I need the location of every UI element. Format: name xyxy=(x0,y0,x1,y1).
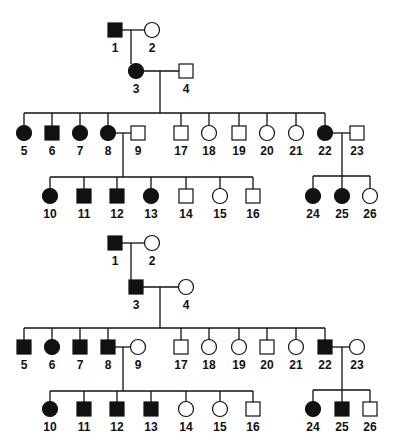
individual-6: 6 xyxy=(45,340,60,373)
affected-female-circle-icon xyxy=(43,402,58,417)
individual-label: 22 xyxy=(318,144,332,158)
individual-label: 5 xyxy=(21,358,28,372)
unaffected-female-circle-icon xyxy=(289,126,304,141)
individual-label: 5 xyxy=(21,144,28,158)
individual-label: 6 xyxy=(49,358,56,372)
individual-label: 24 xyxy=(306,420,320,434)
individual-12: 12 xyxy=(110,402,124,434)
individual-label: 26 xyxy=(363,420,377,434)
individual-16: 16 xyxy=(246,189,260,221)
individual-label: 19 xyxy=(232,358,246,372)
individual-18: 18 xyxy=(202,126,217,159)
individual-5: 5 xyxy=(17,340,31,372)
individual-label: 10 xyxy=(43,207,57,221)
individual-26: 26 xyxy=(363,189,378,222)
individual-label: 15 xyxy=(213,420,227,434)
affected-female-circle-icon xyxy=(17,126,32,141)
affected-female-circle-icon xyxy=(306,189,321,204)
unaffected-female-circle-icon xyxy=(145,23,160,38)
individual-2: 2 xyxy=(145,23,160,56)
individual-label: 8 xyxy=(105,358,112,372)
individual-label: 23 xyxy=(350,358,364,372)
affected-male-square-icon xyxy=(129,280,143,294)
individual-17: 17 xyxy=(174,340,188,372)
individual-9: 9 xyxy=(131,340,146,373)
individual-3: 3 xyxy=(129,64,144,97)
pedigree-bottom: 1234567891718192021222310111213141516242… xyxy=(17,236,377,435)
unaffected-female-circle-icon xyxy=(350,340,365,355)
individual-13: 13 xyxy=(144,402,158,434)
individual-23: 23 xyxy=(350,126,364,158)
individual-label: 2 xyxy=(149,254,156,268)
individual-label: 20 xyxy=(260,144,274,158)
unaffected-female-circle-icon xyxy=(363,189,378,204)
individual-25: 25 xyxy=(335,189,350,222)
affected-female-circle-icon xyxy=(129,64,144,79)
individual-label: 9 xyxy=(135,358,142,372)
individual-label: 7 xyxy=(77,144,84,158)
individual-label: 26 xyxy=(363,207,377,221)
individual-label: 10 xyxy=(43,420,57,434)
individual-20: 20 xyxy=(260,126,275,159)
individual-label: 16 xyxy=(246,420,260,434)
affected-male-square-icon xyxy=(17,340,31,354)
affected-male-square-icon xyxy=(77,402,91,416)
individual-label: 16 xyxy=(246,207,260,221)
individual-label: 2 xyxy=(149,41,156,55)
unaffected-female-circle-icon xyxy=(213,189,228,204)
individual-3: 3 xyxy=(129,280,143,312)
individual-label: 4 xyxy=(183,82,190,96)
individual-label: 9 xyxy=(135,144,142,158)
unaffected-female-circle-icon xyxy=(202,126,217,141)
individual-12: 12 xyxy=(110,189,124,221)
individual-10: 10 xyxy=(43,189,58,222)
individual-label: 4 xyxy=(183,298,190,312)
individual-label: 17 xyxy=(174,144,188,158)
individual-7: 7 xyxy=(73,340,87,372)
individual-22: 22 xyxy=(318,126,333,159)
unaffected-male-square-icon xyxy=(179,189,193,203)
individual-label: 6 xyxy=(49,144,56,158)
pedigree-top: 1234567891718192021222310111213141516242… xyxy=(17,23,378,222)
individual-label: 24 xyxy=(306,207,320,221)
individual-15: 15 xyxy=(213,189,228,222)
individual-15: 15 xyxy=(213,402,228,435)
individual-label: 12 xyxy=(110,420,124,434)
affected-male-square-icon xyxy=(335,402,349,416)
affected-male-square-icon xyxy=(45,126,59,140)
individual-19: 19 xyxy=(232,340,247,373)
individual-11: 11 xyxy=(77,189,91,221)
individual-label: 13 xyxy=(144,207,158,221)
individual-label: 7 xyxy=(77,358,84,372)
individual-5: 5 xyxy=(17,126,32,159)
individual-label: 14 xyxy=(179,420,193,434)
individual-22: 22 xyxy=(318,340,332,372)
individual-19: 19 xyxy=(232,126,246,158)
individual-26: 26 xyxy=(363,402,377,434)
affected-female-circle-icon xyxy=(43,189,58,204)
individual-23: 23 xyxy=(350,340,365,373)
individual-label: 19 xyxy=(232,144,246,158)
affected-female-circle-icon xyxy=(144,189,159,204)
individual-16: 16 xyxy=(246,402,260,434)
individual-21: 21 xyxy=(289,340,304,373)
unaffected-female-circle-icon xyxy=(179,280,194,295)
unaffected-male-square-icon xyxy=(232,126,246,140)
affected-female-circle-icon xyxy=(73,126,88,141)
individual-14: 14 xyxy=(179,402,194,435)
individual-21: 21 xyxy=(289,126,304,159)
affected-male-square-icon xyxy=(77,189,91,203)
individual-label: 1 xyxy=(112,41,119,55)
unaffected-female-circle-icon xyxy=(131,340,146,355)
affected-female-circle-icon xyxy=(306,402,321,417)
individual-label: 14 xyxy=(179,207,193,221)
individual-label: 21 xyxy=(289,144,303,158)
individual-label: 17 xyxy=(174,358,188,372)
individual-label: 15 xyxy=(213,207,227,221)
affected-female-circle-icon xyxy=(45,340,60,355)
unaffected-male-square-icon xyxy=(363,402,377,416)
unaffected-male-square-icon xyxy=(246,189,260,203)
individual-label: 21 xyxy=(289,358,303,372)
affected-male-square-icon xyxy=(101,340,115,354)
individual-13: 13 xyxy=(144,189,159,222)
